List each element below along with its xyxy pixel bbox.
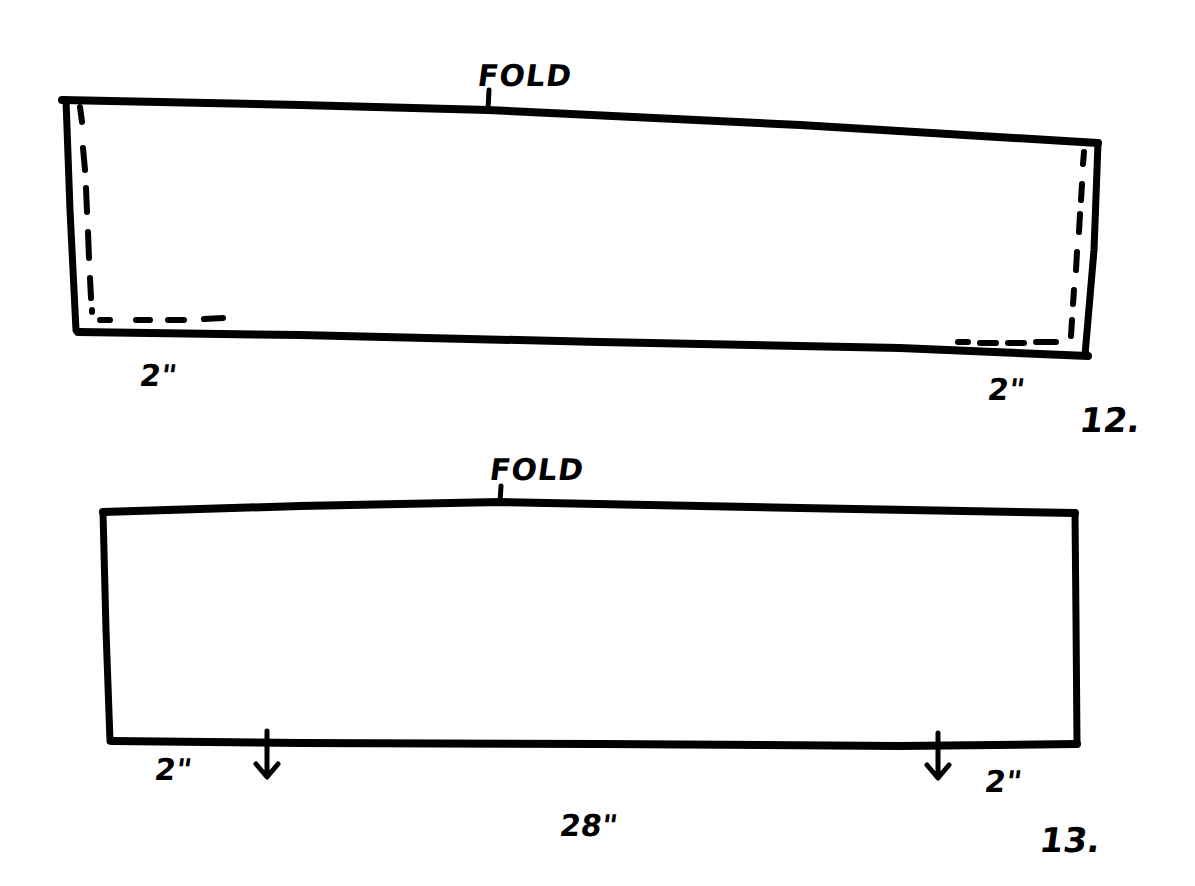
stitch-line-right-vertical [1071,152,1084,336]
stitch-line-left-vertical [80,107,92,312]
fold-label-fig12: FOLD [476,58,575,93]
figure-12-rectangle [62,90,1098,356]
width-measure-fig13: 28" [558,808,620,843]
measure-left-fig12: 2" [138,358,179,393]
down-arrow-icon [927,733,949,778]
measure-right-fig13: 2" [983,764,1024,799]
fold-tick [500,486,501,502]
measure-left-fig13: 2" [153,752,194,787]
stitch-line-right-bottom [958,342,1056,343]
step-number-12: 12. [1077,400,1143,440]
fold-label-fig13: FOLD [488,452,587,487]
fold-tick [488,90,489,110]
figure-13-rectangle [103,486,1077,778]
measure-right-fig12: 2" [986,372,1027,407]
down-arrow-icon [256,731,278,777]
step-number-13: 13. [1037,820,1103,860]
stitch-line-left-bottom [100,318,223,320]
